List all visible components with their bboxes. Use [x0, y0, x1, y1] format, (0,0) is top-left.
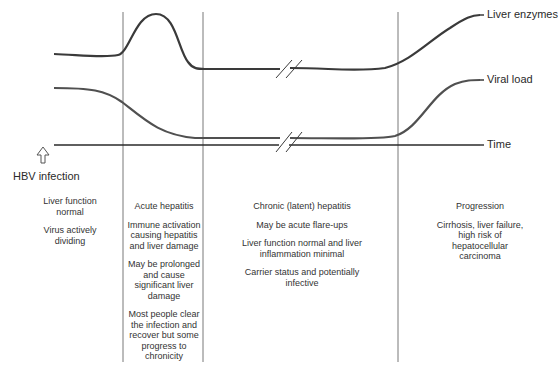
phase-title: Progression	[430, 201, 530, 212]
phase-note: Immune activation causing hepatitis and …	[127, 220, 201, 252]
hbv-infection-label: HBV infection	[13, 170, 80, 183]
phase-progression: Progression Cirrhosis, liver failure, hi…	[430, 201, 530, 270]
phase-acute: Acute hepatitis Immune activation causin…	[127, 201, 201, 370]
phase-note: Liver function normal	[30, 196, 110, 217]
phase-note: May be prolonged and cause significant l…	[127, 259, 201, 301]
phase-note: Cirrhosis, liver failure, high risk of h…	[430, 220, 530, 262]
phase-title: Acute hepatitis	[127, 201, 201, 212]
phase-note: Carrier status and potentially infective	[238, 267, 366, 288]
up-arrow-icon	[37, 147, 49, 163]
viral-load-label: Viral load	[487, 73, 533, 86]
liver-enzymes-curve	[54, 14, 280, 69]
phase-note: Liver function normal and liver inflamma…	[238, 238, 366, 259]
phase-note: Virus actively dividing	[30, 225, 110, 246]
phase-title: Chronic (latent) hepatitis	[238, 201, 366, 212]
viral-load-curve-right	[290, 80, 480, 139]
phase-note: Most people clear the infection and reco…	[127, 309, 201, 362]
phase-chronic: Chronic (latent) hepatitis May be acute …	[238, 201, 366, 296]
liver-enzymes-label: Liver enzymes	[487, 8, 558, 21]
hbv-timeline-diagram	[0, 0, 558, 370]
phase-note: May be acute flare-ups	[238, 220, 366, 231]
viral-load-curve	[54, 88, 280, 138]
liver-enzymes-curve-right	[290, 15, 480, 70]
time-label: Time	[487, 138, 511, 151]
phase-preinfection: Liver function normal Virus actively div…	[30, 196, 110, 254]
